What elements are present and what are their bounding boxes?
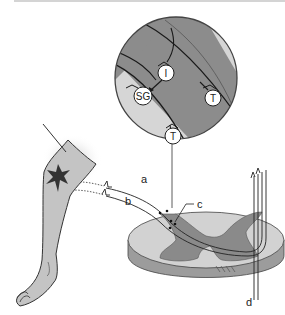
- neuron-t-right: T: [205, 90, 221, 106]
- leg-illustration: [17, 124, 102, 306]
- tract-d-label: d: [246, 296, 252, 308]
- neuron-i-label: I: [165, 68, 168, 79]
- fiber-b-label: b: [125, 195, 131, 207]
- synapse-c-label: c: [197, 198, 203, 210]
- neuron-t-bottom-label: T: [170, 131, 176, 142]
- fiber-a-label: a: [141, 173, 148, 185]
- neuron-t-right-label: T: [210, 93, 216, 104]
- neuron-t-bottom: T: [165, 128, 181, 144]
- neuron-sg-label: SG: [136, 91, 151, 102]
- neuron-i: I: [158, 65, 174, 81]
- neuron-sg: SG: [134, 87, 152, 105]
- pain-pathway-diagram: I SG T T: [0, 0, 285, 315]
- magnified-circle: I SG T T: [110, 10, 250, 150]
